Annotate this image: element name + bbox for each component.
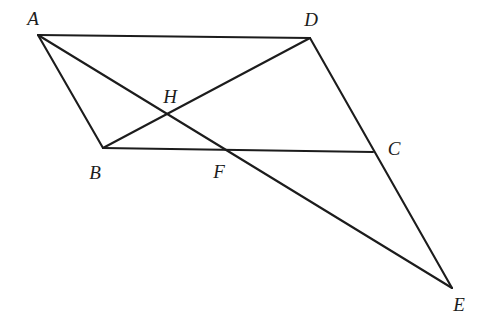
segment-AD [38,35,310,38]
vertex-label-f: F [213,162,225,181]
vertex-label-b: B [89,163,101,182]
vertex-label-e: E [453,295,465,314]
segment-BC [103,148,373,152]
vertex-label-c: C [388,139,401,158]
segment-DE [310,38,452,288]
geometry-figure: ABCDEFH [0,0,485,320]
segment-AB [38,35,103,148]
vertex-label-d: D [304,10,318,29]
vertex-label-a: A [27,9,39,28]
vertex-label-h: H [163,87,177,106]
figure-canvas [0,0,485,320]
